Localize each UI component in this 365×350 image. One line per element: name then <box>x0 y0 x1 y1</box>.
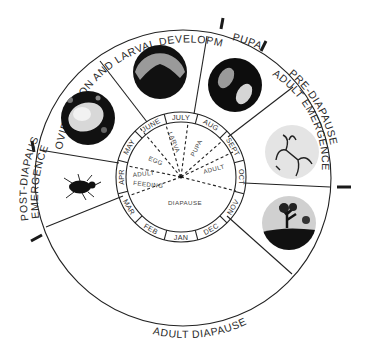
stage-pupa: PUPA <box>189 138 204 158</box>
month-label-jan: JAN <box>174 233 188 242</box>
month-divider <box>118 160 128 163</box>
photo-plant-sketch <box>265 125 319 179</box>
stage-egg: EGG <box>148 154 164 166</box>
divider-development-pupa <box>194 36 207 114</box>
photo-egg <box>61 91 115 145</box>
month-divider <box>164 230 167 240</box>
month-divider <box>135 216 142 223</box>
month-divider <box>220 216 227 223</box>
bar-development-pupa <box>221 18 223 29</box>
divider-oct <box>244 183 330 187</box>
month-divider <box>234 191 244 194</box>
stage-diapause: DIAPAUSE <box>168 199 202 206</box>
photo-tree <box>262 196 316 252</box>
stage-adult: ADULT <box>202 163 225 175</box>
life-cycle-diagram: OVIPOSITION AND LARVAL DEVELOPMENT PUPA … <box>0 0 365 350</box>
photo-pupae <box>208 58 262 112</box>
diagram-canvas: OVIPOSITION AND LARVAL DEVELOPMENT PUPA … <box>0 0 365 350</box>
month-divider <box>118 191 128 194</box>
month-divider <box>164 114 167 124</box>
stage-adult-feeding-1: ADULT <box>132 169 154 178</box>
label-adult-diapause: ADULT DIAPAUSE <box>152 315 248 340</box>
label-pupa: PUPA <box>231 30 264 51</box>
month-label-apr: APR <box>117 169 126 185</box>
month-divider <box>195 114 198 124</box>
bar-post-diapause <box>31 235 42 241</box>
weevil-icon <box>64 174 101 200</box>
month-label-oct: OCT <box>237 169 246 185</box>
divider-mar-apr <box>46 196 123 227</box>
stage-adult-feeding-2: FEEDING <box>133 179 164 189</box>
photo-larva <box>133 45 187 99</box>
stage-larva: LARVA <box>167 131 182 154</box>
month-divider <box>220 131 227 138</box>
month-label-july: JULY <box>172 113 190 122</box>
month-divider <box>234 160 244 163</box>
month-divider <box>195 230 198 240</box>
divider-oviposition-start <box>40 150 119 163</box>
month-divider <box>135 131 142 138</box>
